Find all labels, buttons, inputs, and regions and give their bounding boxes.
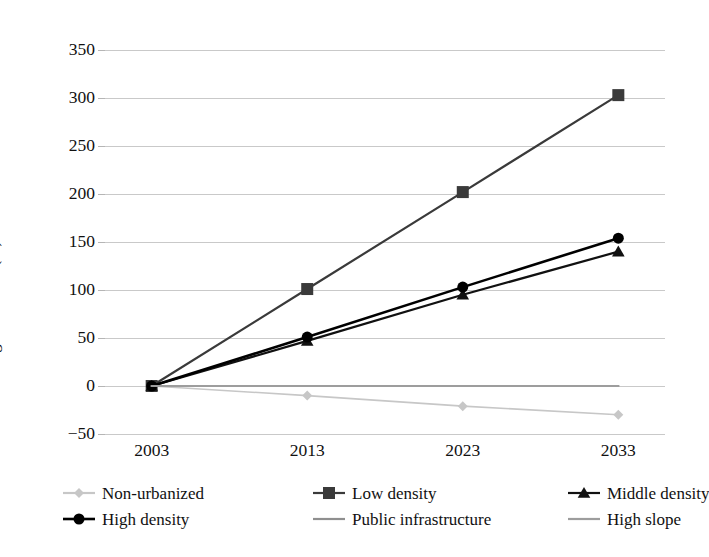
legend-marker-icon: [312, 486, 346, 500]
series-line: [152, 252, 619, 386]
series-line: [152, 95, 619, 386]
data-point-marker: [323, 487, 335, 499]
y-axis-tick-label: 300: [43, 87, 95, 108]
legend-item-public-infrastructure[interactable]: Public infrastructure: [312, 511, 567, 528]
data-point-marker: [74, 488, 84, 498]
data-point-marker: [301, 283, 313, 295]
legend-item-high-density[interactable]: High density: [62, 511, 312, 528]
x-axis-tick-label: 2023: [445, 440, 480, 461]
data-point-marker: [74, 514, 85, 525]
data-point-marker: [612, 89, 624, 101]
legend-marker-icon: [567, 512, 601, 526]
y-axis-tick-label: 350: [43, 39, 95, 60]
y-axis-tick-label: 150: [43, 231, 95, 252]
y-tick-mark: [98, 146, 105, 147]
data-point-marker: [612, 246, 625, 257]
legend-item-high-slope[interactable]: High slope: [567, 511, 709, 528]
legend-item-label: Non-urbanized: [102, 485, 204, 502]
series-middle-density: [145, 246, 624, 391]
legend-item-low-density[interactable]: Low density: [312, 485, 567, 502]
y-tick-mark: [98, 98, 105, 99]
legend-item-label: High density: [102, 511, 189, 528]
y-tick-mark: [98, 434, 105, 435]
y-tick-mark: [98, 50, 105, 51]
series-line: [152, 386, 619, 415]
y-tick-mark: [98, 386, 105, 387]
y-axis-tick-label: 100: [43, 279, 95, 300]
data-point-marker: [457, 186, 469, 198]
x-axis-tick-labels: 2003201320232033: [105, 440, 665, 466]
y-axis-title-label: Percentage variation (%): [0, 241, 3, 412]
legend-item-non-urbanized[interactable]: Non-urbanized: [62, 485, 312, 502]
y-tick-mark: [98, 338, 105, 339]
series-low-density: [146, 89, 625, 392]
y-axis-tick-label: 200: [43, 183, 95, 204]
chart-legend: Non-urbanizedLow densityMiddle densityHi…: [62, 480, 662, 532]
data-point-marker: [458, 401, 468, 411]
y-axis-tick-label: 0: [43, 375, 95, 396]
data-point-marker: [302, 391, 312, 401]
data-point-marker: [302, 332, 313, 343]
legend-item-label: High slope: [607, 511, 681, 528]
data-point-marker: [613, 410, 623, 420]
legend-item-label: Middle density: [607, 485, 709, 502]
y-axis-title: Percentage variation (%): [0, 0, 30, 557]
y-axis-tick-label: −50: [43, 423, 95, 444]
y-tick-mark: [98, 290, 105, 291]
y-axis-tick-label: 50: [43, 327, 95, 348]
legend-marker-icon: [312, 512, 346, 526]
legend-item-middle-density[interactable]: Middle density: [567, 485, 709, 502]
y-axis-tick-label: 250: [43, 135, 95, 156]
x-axis-tick-label: 2033: [601, 440, 636, 461]
gridline: [105, 434, 665, 435]
legend-marker-icon: [567, 486, 601, 500]
legend-item-label: Public infrastructure: [352, 511, 491, 528]
series-line: [152, 238, 619, 386]
legend-marker-icon: [62, 512, 96, 526]
series-layer: [105, 50, 665, 434]
data-point-marker: [613, 233, 624, 244]
legend-marker-icon: [62, 486, 96, 500]
x-axis-tick-label: 2003: [134, 440, 169, 461]
y-tick-mark: [98, 242, 105, 243]
legend-item-label: Low density: [352, 485, 437, 502]
plot-area: −50050100150200250300350: [105, 50, 665, 434]
y-tick-mark: [98, 194, 105, 195]
data-point-marker: [457, 282, 468, 293]
x-axis-tick-label: 2013: [290, 440, 325, 461]
